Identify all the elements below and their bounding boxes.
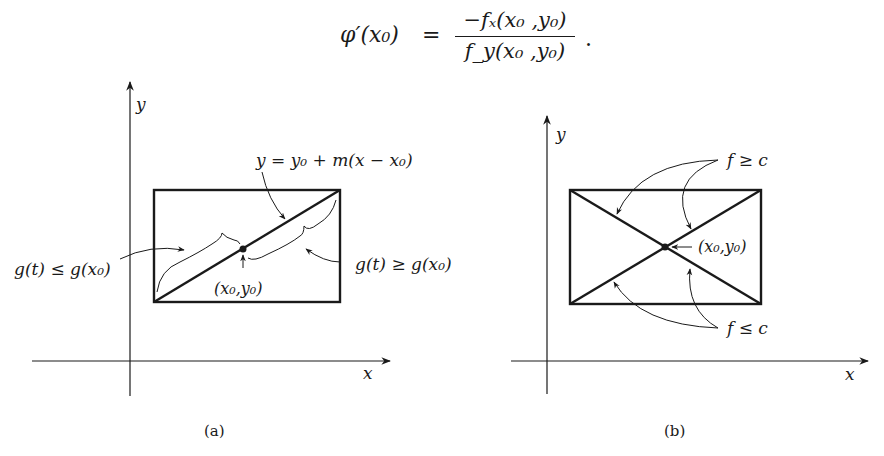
lower-region-label: f ≤ c — [725, 318, 768, 338]
right-brace-arrow — [306, 249, 340, 262]
x-axis-label-b: x — [845, 364, 855, 384]
lower-arrow-2 — [690, 269, 718, 328]
line-label-arrow — [262, 172, 285, 219]
y-axis-label-a: y — [135, 94, 146, 114]
line-equation-label: y = y₀ + m(x − x₀) — [255, 150, 413, 170]
right-brace-icon — [248, 200, 336, 259]
point-x0-y0-a — [240, 246, 247, 253]
figure-b: y x f ≥ c f ≤ c (x₀,y₀) (b) — [511, 116, 868, 440]
figure-a: y x y = y₀ + m(x − x₀) g(t) ≤ g(x₀) g(t)… — [14, 82, 452, 440]
upper-arrow-1 — [617, 160, 718, 214]
left-brace-label: g(t) ≤ g(x₀) — [14, 259, 111, 279]
y-axis-label-b: y — [555, 124, 566, 144]
upper-region-label: f ≥ c — [725, 150, 768, 170]
point-x0-y0-b — [662, 244, 669, 251]
figure-canvas: y x y = y₀ + m(x − x₀) g(t) ≤ g(x₀) g(t)… — [0, 0, 884, 456]
point-label-a: (x₀,y₀) — [214, 279, 262, 298]
x-axis-label-a: x — [363, 363, 373, 383]
caption-b: (b) — [664, 422, 685, 440]
caption-a: (a) — [204, 422, 225, 440]
point-label-b: (x₀,y₀) — [698, 237, 746, 256]
right-brace-label: g(t) ≥ g(x₀) — [355, 254, 452, 274]
